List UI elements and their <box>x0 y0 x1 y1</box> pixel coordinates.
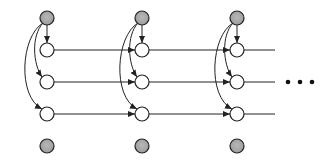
hidden-node <box>40 75 54 89</box>
hidden-node <box>135 107 149 121</box>
diagram-canvas <box>0 0 330 162</box>
ellipsis-layer <box>286 80 315 85</box>
dependency-edge <box>215 23 233 109</box>
dependency-edge <box>120 23 138 109</box>
hidden-node <box>230 75 244 89</box>
dependency-edge <box>25 23 43 109</box>
observed-node-bottom <box>40 139 54 153</box>
observed-node-bottom <box>230 139 244 153</box>
hidden-node <box>135 43 149 57</box>
hidden-node <box>40 43 54 57</box>
hidden-node <box>230 107 244 121</box>
ellipsis-dot <box>298 80 303 85</box>
hidden-node <box>135 75 149 89</box>
hidden-node <box>40 107 54 121</box>
observed-node-bottom <box>135 139 149 153</box>
ellipsis-dot <box>310 80 315 85</box>
edges-layer <box>25 23 275 114</box>
hidden-node <box>230 43 244 57</box>
graphical-model-diagram <box>0 0 330 162</box>
ellipsis-dot <box>286 80 291 85</box>
observed-node-top <box>40 11 54 25</box>
observed-node-top <box>135 11 149 25</box>
observed-node-top <box>230 11 244 25</box>
